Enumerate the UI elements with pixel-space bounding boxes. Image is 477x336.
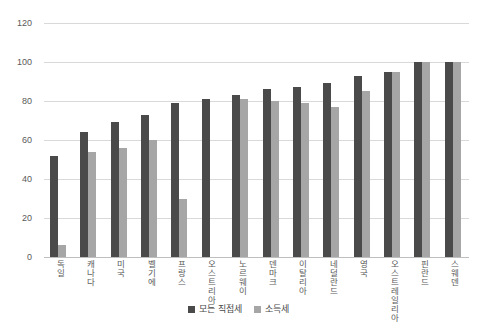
bar — [445, 62, 453, 257]
bar — [354, 76, 362, 257]
bar-group — [196, 23, 226, 257]
x-tick-label: 프랑스 — [176, 260, 185, 287]
bar — [301, 103, 309, 257]
legend-swatch-dark-icon — [188, 306, 195, 313]
bar — [119, 148, 127, 257]
x-tick-label: 오스트리아 — [206, 260, 215, 305]
bar-group — [226, 23, 256, 257]
bar — [88, 152, 96, 257]
bar — [323, 83, 331, 257]
bar-group — [257, 23, 287, 257]
bar — [171, 103, 179, 257]
gridline-0 — [44, 257, 469, 258]
bar-group — [439, 23, 469, 257]
bars-layer — [44, 23, 469, 257]
x-tick-label: 영국 — [358, 260, 367, 278]
bar-group — [105, 23, 135, 257]
x-tick-label: 벨기에 — [146, 260, 155, 287]
plot-area — [44, 23, 469, 257]
x-tick-label: 미국 — [115, 260, 124, 278]
legend-item[interactable]: 모든 직접세 — [188, 305, 242, 314]
y-tick-label: 120 — [17, 19, 32, 28]
bar-group — [44, 23, 74, 257]
bar — [384, 72, 392, 257]
bar — [202, 99, 210, 257]
bar-group — [317, 23, 347, 257]
y-tick-label: 60 — [22, 136, 32, 145]
bar-group — [348, 23, 378, 257]
y-tick-label: 20 — [22, 214, 32, 223]
bar — [331, 107, 339, 257]
bar — [240, 99, 248, 257]
bar — [271, 101, 279, 257]
bar — [58, 245, 66, 257]
bar — [179, 199, 187, 258]
bar — [149, 140, 157, 257]
bar — [453, 62, 461, 257]
bar — [80, 132, 88, 257]
bar — [232, 95, 240, 257]
chart-legend: 모든 직접세소득세 — [0, 305, 477, 314]
legend-swatch-light-icon — [254, 306, 261, 313]
legend-label: 모든 직접세 — [199, 305, 242, 314]
bar-chart: 020406080100120 독일캐나다미국벨기에프랑스오스트리아노르웨이덴마… — [0, 0, 477, 336]
bar-group — [378, 23, 408, 257]
bar-group — [165, 23, 195, 257]
bar — [362, 91, 370, 257]
y-tick-label: 100 — [17, 58, 32, 67]
bar-group — [408, 23, 438, 257]
x-tick-label: 핀란드 — [419, 260, 428, 287]
x-tick-label: 이탈리아 — [298, 260, 307, 296]
x-tick-label: 스웨덴 — [449, 260, 458, 287]
bar — [422, 62, 430, 257]
x-axis: 독일캐나다미국벨기에프랑스오스트리아노르웨이덴마크이탈리아네덜란드영국오스트레일… — [44, 260, 469, 305]
y-tick-label: 80 — [22, 97, 32, 106]
bar — [111, 122, 119, 257]
bar — [414, 62, 422, 257]
x-tick-label: 덴마크 — [267, 260, 276, 287]
x-tick-label: 노르웨이 — [237, 260, 246, 296]
bar — [392, 72, 400, 257]
bar-group — [287, 23, 317, 257]
y-axis: 020406080100120 — [0, 23, 40, 257]
legend-label: 소득세 — [265, 305, 289, 314]
x-tick-label: 네덜란드 — [328, 260, 337, 296]
bar — [141, 115, 149, 257]
x-tick-label: 캐나다 — [85, 260, 94, 287]
bar-group — [135, 23, 165, 257]
x-tick-label: 독일 — [55, 260, 64, 278]
y-tick-label: 40 — [22, 175, 32, 184]
bar — [263, 89, 271, 257]
bar — [50, 156, 58, 257]
bar — [293, 87, 301, 257]
legend-item[interactable]: 소득세 — [254, 305, 289, 314]
bar-group — [74, 23, 104, 257]
y-tick-label: 0 — [27, 253, 32, 262]
